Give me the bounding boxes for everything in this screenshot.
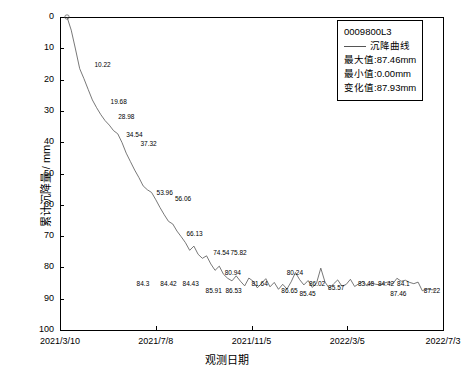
legend-stat-change: 变化值:87.93mm — [344, 81, 416, 95]
data-point-label: 86.53 — [225, 287, 241, 294]
data-point-label: 85.91 — [206, 287, 222, 294]
legend-line-swatch — [344, 46, 366, 47]
data-point-label: 34.54 — [126, 131, 142, 138]
data-point-label: 37.32 — [140, 140, 156, 147]
data-point-label: 85.57 — [328, 284, 344, 291]
data-point-label: 86.02 — [309, 280, 325, 287]
data-point-label: 85.45 — [299, 290, 315, 297]
data-point-label: 86.65 — [281, 287, 297, 294]
legend-title: 0009800L3 — [344, 25, 416, 39]
legend-stat-max: 最大值:87.46mm — [344, 53, 416, 67]
data-point-label: 19.68 — [111, 98, 127, 105]
data-point-label: 74.54 — [213, 249, 229, 256]
data-point-label: 56.06 — [175, 195, 191, 202]
data-point-label: 84.3 — [137, 280, 150, 287]
data-point-label: 87.46 — [390, 290, 406, 297]
data-point-label: 10.22 — [94, 61, 110, 68]
data-point-label: 81.64 — [252, 280, 268, 287]
data-point-label: 80.24 — [287, 269, 303, 276]
legend-series-row: 沉降曲线 — [344, 39, 416, 53]
data-point-label: 84.42 — [160, 280, 176, 287]
data-point-label: 28.98 — [118, 113, 134, 120]
data-point-label: 84.43 — [183, 280, 199, 287]
data-point-label: 83.48 — [358, 280, 374, 287]
legend-stat-min: 最小值:0.00mm — [344, 67, 416, 81]
data-point-label: 66.13 — [186, 230, 202, 237]
chart-legend: 0009800L3 沉降曲线 最大值:87.46mm 最小值:0.00mm 变化… — [337, 20, 423, 101]
data-point-label: 84.42 — [378, 280, 394, 287]
data-point-label: 53.96 — [157, 189, 173, 196]
data-point-label: 75.82 — [230, 249, 246, 256]
data-point-label: 87.22 — [424, 287, 440, 294]
data-point-label: 84.1 — [397, 280, 410, 287]
legend-series-label: 沉降曲线 — [370, 39, 410, 53]
data-point-label: 80.94 — [225, 269, 241, 276]
